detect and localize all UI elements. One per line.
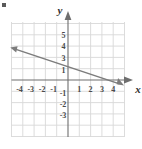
- x-tick-label: 2: [89, 85, 93, 94]
- y-tick-label: 4: [62, 42, 66, 51]
- x-tick-label: -3: [27, 85, 34, 94]
- y-tick-labels-negative: -1 -2 -3: [60, 89, 67, 121]
- y-tick-label: -3: [60, 111, 67, 120]
- y-axis-arrow-icon: [65, 11, 72, 20]
- x-tick-labels-positive: 1 2 3 4: [77, 85, 115, 94]
- x-tick-labels-negative: -4 -3 -2 -1: [16, 85, 57, 94]
- x-tick-label: 1: [77, 85, 81, 94]
- corner-bullet-mark: [2, 3, 6, 7]
- y-tick-label: 3: [62, 54, 66, 63]
- x-axis-arrow-icon: [124, 77, 133, 84]
- x-axis-label: x: [134, 83, 141, 95]
- x-tick-label: -2: [39, 85, 46, 94]
- coordinate-plane-svg: -4 -3 -2 -1 1 2 3 4 5 4 3 1 -1 -2 -3 y x: [0, 0, 142, 149]
- y-tick-label: -2: [60, 100, 67, 109]
- y-axis-label: y: [56, 4, 63, 16]
- y-tick-label: 5: [62, 31, 66, 40]
- line-arrow-right-icon: [117, 78, 124, 85]
- y-tick-label: 1: [62, 66, 66, 75]
- x-tick-label: 3: [100, 85, 104, 94]
- x-tick-label: -1: [50, 85, 57, 94]
- y-tick-labels-positive: 5 4 3 1: [62, 31, 66, 75]
- x-tick-label: 4: [111, 85, 115, 94]
- x-tick-label: -4: [16, 85, 23, 94]
- graph-figure: -4 -3 -2 -1 1 2 3 4 5 4 3 1 -1 -2 -3 y x: [0, 0, 142, 149]
- y-tick-label: -1: [60, 89, 67, 98]
